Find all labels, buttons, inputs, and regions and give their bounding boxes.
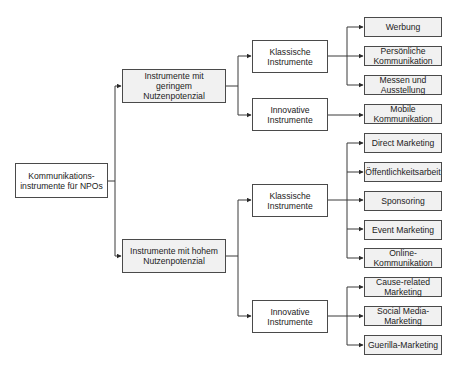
- leaf-sponsoring: Sponsoring: [364, 191, 442, 211]
- node-classic-instruments-low: Klassische Instrumente: [252, 40, 328, 73]
- root-node: Kommunikations- instrumente für NPOs: [15, 163, 108, 198]
- leaf-online-kommunikation: Online-Kommunikation: [364, 248, 442, 268]
- leaf-persoenliche-kommunikation: Persönliche Kommunikation: [364, 46, 442, 66]
- leaf-mobile-kommunikation: Mobile Kommunikation: [364, 104, 442, 124]
- node-low-benefit-instruments: Instrumente mit geringem Nutzenpotenzial: [122, 69, 226, 103]
- leaf-direct-marketing: Direct Marketing: [364, 133, 442, 153]
- leaf-guerilla-marketing: Guerilla-Marketing: [364, 335, 442, 355]
- leaf-social-media-marketing: Social Media-Marketing: [364, 306, 442, 326]
- leaf-event-marketing: Event Marketing: [364, 220, 442, 240]
- leaf-werbung: Werbung: [364, 17, 442, 37]
- node-innovative-instruments-high: Innovative Instrumente: [252, 300, 328, 333]
- leaf-oeffentlichkeitsarbeit: Öffentlichkeitsarbeit: [364, 162, 442, 182]
- node-innovative-instruments-low: Innovative Instrumente: [252, 98, 328, 131]
- leaf-cause-related-marketing: Cause-related Marketing: [364, 277, 442, 297]
- leaf-messen-ausstellung: Messen und Ausstellung: [364, 75, 442, 95]
- node-classic-instruments-high: Klassische Instrumente: [252, 184, 328, 217]
- node-high-benefit-instruments: Instrumente mit hohem Nutzenpotenzial: [122, 239, 226, 273]
